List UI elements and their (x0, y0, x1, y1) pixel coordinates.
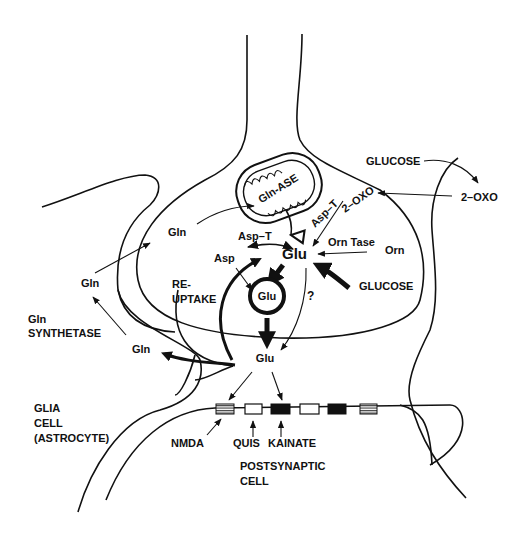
postsynaptic-label-2: CELL (240, 475, 269, 487)
synapse-diagram: Gln-ASE (0, 0, 529, 538)
receptor-filled (328, 404, 346, 414)
glucose-outer-label: GLUCOSE (366, 155, 420, 167)
receptor-kainate (271, 404, 290, 414)
reuptake-label-2: UPTAKE (172, 293, 216, 305)
glia-gln-bottom-label: Gln (132, 343, 151, 355)
orn-tase-label: Orn Tase (328, 236, 375, 248)
glia-cell-outline-right (409, 158, 466, 498)
receptor-striped (360, 404, 377, 414)
gln-synthetase-label-1: Gln (28, 313, 47, 325)
glia-cell-label-2: CELL (34, 417, 63, 429)
vesicle-glu-label: Glu (258, 290, 276, 302)
postsynaptic-label-1: POSTSYNAPTIC (240, 460, 326, 472)
orn-label: Orn (385, 244, 405, 256)
question-mark: ? (307, 289, 314, 303)
gln-inner-label: Gln (168, 226, 187, 238)
two-oxo-outer-label: 2–OXO (461, 191, 498, 203)
two-oxo-inner-label: 2–OXO (339, 184, 376, 215)
receptor-nmda (216, 404, 234, 414)
gln-synthetase-label-2: SYNTHETASE (28, 327, 101, 339)
nmda-label: NMDA (171, 437, 204, 449)
asp-t-left-label: Asp–T (238, 230, 272, 242)
quis-label: QUIS (233, 437, 260, 449)
glia-cell-label-3: (ASTROCYTE) (34, 432, 110, 444)
receptor-open (300, 404, 319, 414)
receptor-quis (245, 404, 262, 414)
reuptake-label-1: RE- (172, 278, 191, 290)
cleft-glu-label: Glu (256, 352, 274, 364)
glia-cell-label-1: GLIA (34, 402, 60, 414)
glia-gln-top-label: Gln (81, 277, 100, 289)
glu-main-label: Glu (282, 245, 307, 262)
glucose-inner-label: GLUCOSE (359, 280, 413, 292)
asp-label: Asp (214, 252, 235, 264)
kainate-label: KAINATE (268, 437, 316, 449)
